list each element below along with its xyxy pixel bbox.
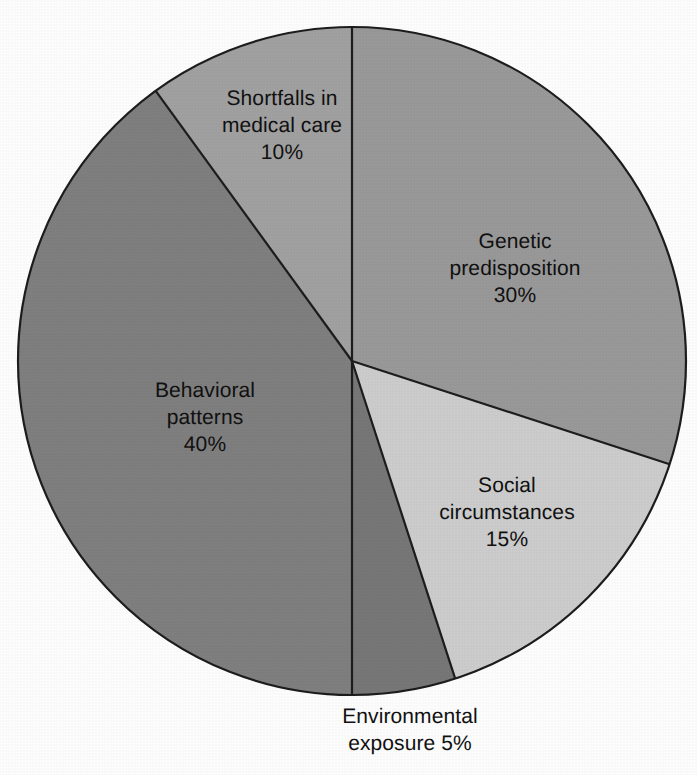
slice-label-behavioral-patterns: Behavioral patterns 40% (110, 377, 300, 458)
slice-label-environmental-exposure: Environmental exposure 5% (290, 703, 530, 757)
slice-label-genetic-predisposition: Genetic predisposition 30% (420, 228, 610, 309)
slice-label-shortfalls-in-medical-care: Shortfalls in medical care 10% (182, 85, 382, 166)
slice-label-social-circumstances: Social circumstances 15% (412, 472, 602, 553)
pie-chart: Shortfalls in medical care 10% Genetic p… (0, 0, 697, 775)
